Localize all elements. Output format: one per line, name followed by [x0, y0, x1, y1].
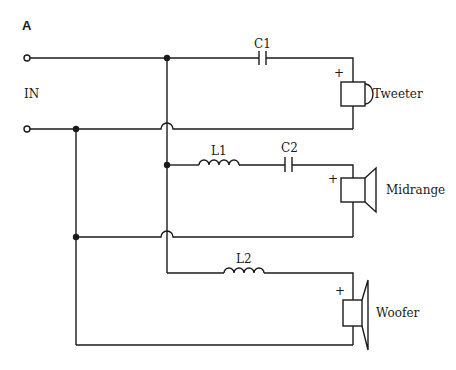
top-rail — [30, 51, 353, 82]
l1-label: L1 — [211, 144, 227, 158]
panel-label: A — [22, 18, 32, 33]
input-label: IN — [24, 87, 39, 101]
l2-label: L2 — [236, 252, 252, 266]
c2-label: C2 — [281, 141, 298, 155]
midrange-speaker-icon — [341, 168, 376, 237]
woofer-label: Woofer — [376, 306, 420, 320]
junction-node — [164, 55, 170, 61]
tweeter-label: Tweeter — [373, 87, 423, 101]
input-terminal-top — [24, 55, 30, 61]
woofer-speaker-icon — [343, 280, 368, 350]
midrange-label: Midrange — [386, 183, 445, 197]
tweeter-icon — [341, 82, 373, 129]
return-rail-midrange — [76, 231, 353, 237]
midrange-plus-sign: + — [328, 172, 338, 186]
woofer-branch — [167, 268, 353, 300]
tweeter-plus-sign: + — [334, 66, 344, 80]
input-terminal-bottom — [24, 126, 30, 132]
midrange-branch — [167, 157, 353, 178]
c1-label: C1 — [254, 37, 271, 51]
junction-node — [73, 126, 79, 132]
crossover-circuit-diagram: A IN C1 + Tweeter L1 C2 — [0, 0, 456, 370]
woofer-plus-sign: + — [335, 284, 345, 298]
